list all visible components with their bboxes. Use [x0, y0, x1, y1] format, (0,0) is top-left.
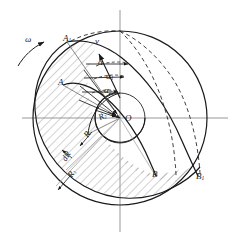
diagram-svg	[0, 0, 241, 240]
angular-velocity-omega-label: ω	[25, 35, 31, 45]
point-B-label: B	[152, 170, 158, 180]
angle-alpha-label: α	[98, 58, 103, 68]
angle-alpha2-label: α2	[104, 86, 112, 96]
velocity-vector-v-label: v	[95, 37, 99, 47]
point-B1-label: B1	[196, 172, 204, 182]
point-O-label: O	[125, 114, 132, 124]
figure-canvas: A1 A B B1 O α α1 α2 R2 R dR R1 v ω	[0, 0, 241, 240]
point-A1-label: A1	[63, 34, 71, 44]
omega-arrow	[18, 42, 44, 66]
angle-alpha1-label: α1	[106, 72, 114, 82]
point-A-label: A	[58, 78, 64, 88]
